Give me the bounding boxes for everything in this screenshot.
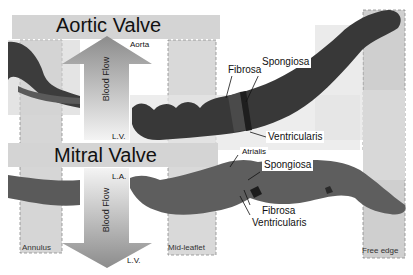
mitral-fibrosa-label: Fibrosa — [262, 206, 295, 216]
aortic-fibrosa-label: Fibrosa — [226, 64, 263, 76]
aortic-spongiosa-label: Spongiosa — [260, 56, 311, 68]
region-free-edge-label: Free edge — [362, 247, 398, 255]
mitral-valve-title: Mitral Valve — [54, 145, 157, 165]
region-annulus-label: Annulus — [22, 244, 51, 252]
aortic-valve-title: Aortic Valve — [56, 15, 161, 35]
aortic-ventricularis-label: Ventricularis — [266, 131, 324, 143]
aorta-label: Aorta — [130, 41, 149, 49]
figure-graphics — [0, 0, 413, 275]
aortic-blood-flow-label: Blood Flow — [101, 53, 111, 105]
mitral-spongiosa-label: Spongiosa — [262, 159, 313, 171]
la-label: L.A. — [112, 173, 126, 181]
mitral-ventricularis-label: Ventricularis — [252, 218, 306, 228]
mitral-blood-flow-label: Blood Flow — [101, 184, 111, 236]
valve-histology-figure: Aortic Valve Mitral Valve Aorta L.V. L.A… — [0, 0, 413, 275]
region-box-free-edge — [363, 10, 405, 258]
region-mid-leaflet-label: Mid-leaflet — [168, 244, 205, 252]
mitral-lv-label: L.V. — [127, 257, 141, 265]
mitral-atrialis-label: Atrialis — [240, 147, 268, 157]
aortic-lv-label: L.V. — [112, 133, 126, 141]
